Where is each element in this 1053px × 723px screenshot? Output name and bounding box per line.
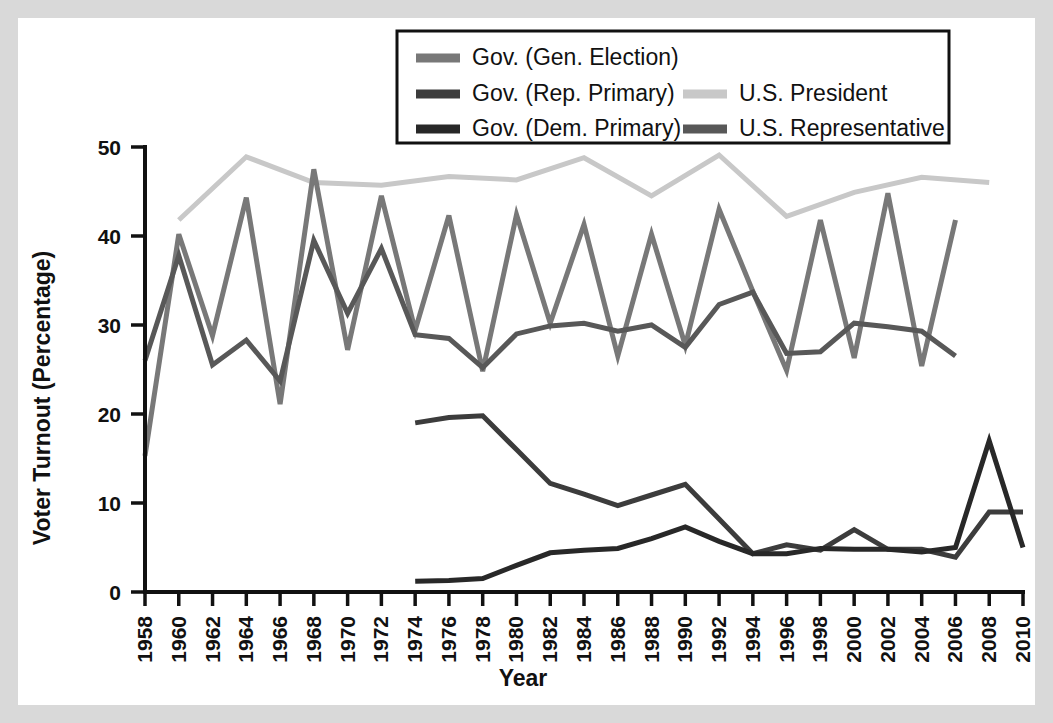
x-tick-label: 1970 xyxy=(336,616,359,663)
x-tick-label: 1984 xyxy=(572,616,595,663)
x-tick-label: 1996 xyxy=(775,616,798,663)
legend-label: Gov. (Dem. Primary) xyxy=(472,115,681,141)
y-tick-label: 30 xyxy=(98,314,121,337)
x-tick-label: 1986 xyxy=(606,616,629,663)
x-tick-label: 1968 xyxy=(302,616,325,663)
chart-legend: Gov. (Gen. Election)Gov. (Rep. Primary)G… xyxy=(397,31,949,143)
x-tick-label: 1992 xyxy=(707,616,730,663)
voter-turnout-line-chart: 01020304050 1958196019621964196619681970… xyxy=(18,18,1035,705)
x-tick-label: 2002 xyxy=(876,616,899,663)
y-tick-label: 40 xyxy=(98,225,121,248)
figure-page: 01020304050 1958196019621964196619681970… xyxy=(18,18,1035,705)
legend-label: Gov. (Rep. Primary) xyxy=(472,80,675,106)
x-tick-label: 1998 xyxy=(808,616,831,663)
x-tick-label: 1994 xyxy=(741,616,764,663)
x-tick-label: 2008 xyxy=(977,616,1000,663)
y-tick-label: 50 xyxy=(98,136,121,159)
x-tick-label: 1972 xyxy=(369,616,392,663)
x-tick-label: 1982 xyxy=(538,616,561,663)
legend-label: U.S. Representative xyxy=(739,115,945,141)
x-axis-title: Year xyxy=(499,665,548,691)
x-tick-label: 1964 xyxy=(234,616,257,663)
x-tick-label: 2010 xyxy=(1011,616,1034,663)
x-tick-label: 1960 xyxy=(167,616,190,663)
x-tick-label: 1978 xyxy=(471,616,494,663)
x-tick-label: 1980 xyxy=(504,616,527,663)
y-tick-label: 20 xyxy=(98,403,121,426)
chart-figure: 01020304050 1958196019621964196619681970… xyxy=(18,18,1035,705)
legend-label: U.S. President xyxy=(739,80,888,106)
x-tick-label: 1988 xyxy=(640,616,663,663)
x-tick-label: 1962 xyxy=(201,616,224,663)
x-tick-label: 1966 xyxy=(268,616,291,663)
x-tick-label: 1974 xyxy=(403,616,426,663)
x-tick-label: 1958 xyxy=(133,616,156,663)
y-tick-label: 10 xyxy=(98,492,121,515)
legend-label: Gov. (Gen. Election) xyxy=(472,44,679,70)
x-tick-label: 2000 xyxy=(842,616,865,663)
x-tick-label: 1976 xyxy=(437,616,460,663)
y-axis-title: Voter Turnout (Percentage) xyxy=(29,251,55,545)
x-tick-label: 2004 xyxy=(910,616,933,663)
y-tick-label: 0 xyxy=(109,581,121,604)
x-tick-label: 2006 xyxy=(943,616,966,663)
x-tick-label: 1990 xyxy=(673,616,696,663)
